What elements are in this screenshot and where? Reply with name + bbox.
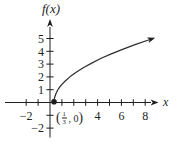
point-y-value: , 0 (68, 113, 78, 124)
fraction-one-third: 1 3 (62, 110, 67, 124)
x-tick-label: 8 (142, 109, 148, 123)
x-axis-label: x (163, 95, 168, 110)
open-paren: ( (56, 110, 61, 124)
function-graph-figure: −2468−212345 f(x) x ( 1 3 , 0 ) (0, 0, 179, 150)
close-paren: ) (78, 110, 83, 124)
plot-svg: −2468−212345 (0, 0, 179, 150)
x-axis-arrow-icon (151, 100, 159, 106)
start-point-label: ( 1 3 , 0 ) (56, 108, 83, 126)
y-tick-label: 4 (38, 45, 44, 59)
x-tick-label: 4 (95, 109, 101, 123)
start-point-marker (51, 99, 57, 105)
y-tick-label: 1 (38, 83, 44, 97)
y-tick-label: −2 (31, 121, 44, 135)
fraction-denominator: 3 (63, 118, 66, 125)
y-tick-label: 2 (38, 70, 44, 84)
x-tick-label: 6 (118, 109, 124, 123)
function-curve (54, 40, 150, 103)
y-axis-arrow-icon (47, 19, 53, 27)
y-tick-label: 5 (38, 32, 44, 46)
y-tick-label: 3 (38, 57, 44, 71)
y-axis-label: f(x) (42, 1, 60, 17)
